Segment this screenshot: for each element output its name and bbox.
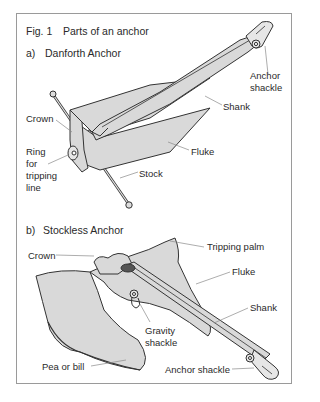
label-pea-or-bill: Pea or bill: [42, 361, 84, 372]
label-gravity-shackle-line2: shackle: [145, 337, 177, 348]
section-a-title: Danforth Anchor: [45, 48, 121, 59]
label-ring-line1: Ring: [26, 146, 46, 157]
label-ring-line3: tripping: [26, 170, 57, 181]
section-b-letter: b): [26, 225, 35, 236]
label-gravity-shackle-line1: Gravity: [145, 325, 175, 336]
label-anchor-shackle-b: Anchor shackle: [165, 364, 230, 375]
label-anchor-shackle-a-line2: shackle: [250, 82, 282, 93]
figure-title: Parts of an anchor: [63, 26, 149, 37]
label-crown-b: Crown: [28, 250, 55, 261]
section-a-letter: a): [26, 48, 35, 59]
section-b-title: Stockless Anchor: [43, 225, 124, 236]
label-ring-line4: line: [26, 182, 41, 193]
label-ring-line2: for: [26, 158, 37, 169]
label-fluke-a: Fluke: [191, 146, 214, 157]
label-crown-a: Crown: [26, 113, 53, 124]
label-tripping-palm: Tripping palm: [207, 241, 264, 252]
label-stock: Stock: [139, 168, 163, 179]
danforth-tripping-ring-icon: [68, 146, 78, 160]
label-shank-a: Shank: [223, 101, 250, 112]
stockless-anchor-drawing: [36, 238, 279, 379]
label-anchor-shackle-a-line1: Anchor: [250, 70, 280, 81]
figure-number: Fig. 1: [26, 26, 52, 37]
label-shank-b: Shank: [250, 302, 277, 313]
label-fluke-b: Fluke: [232, 266, 255, 277]
